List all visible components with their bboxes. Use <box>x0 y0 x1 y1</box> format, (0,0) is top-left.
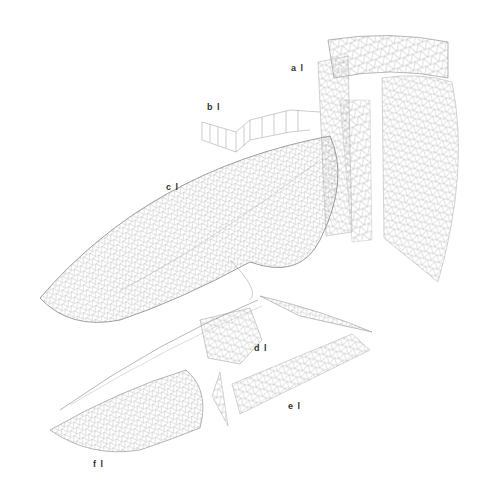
label-b: b l <box>207 102 221 112</box>
label-c: c l <box>166 182 179 192</box>
mesh-a <box>318 35 458 282</box>
label-d: d l <box>254 343 268 353</box>
mesh-c <box>40 136 338 322</box>
label-a: a l <box>291 63 304 73</box>
label-f: f l <box>93 459 104 469</box>
mesh-f <box>50 370 203 452</box>
label-e: e l <box>288 401 301 411</box>
mesh-drawing <box>0 0 490 488</box>
diagram-canvas: a l b l c l d l e l f l <box>0 0 490 488</box>
